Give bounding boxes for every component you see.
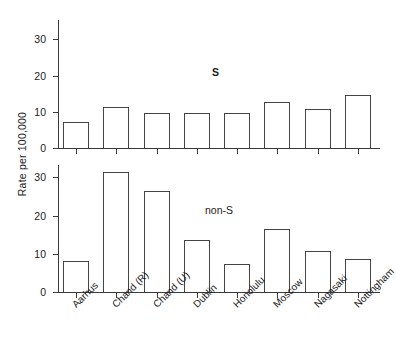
bar-S-Honolulu bbox=[224, 113, 250, 148]
x-tick-S-Aarhus bbox=[76, 149, 77, 154]
y-tick-non-S-30 bbox=[53, 177, 58, 178]
y-tick-S-0 bbox=[53, 148, 58, 149]
panel-annotation-non-s: non-S bbox=[205, 204, 233, 216]
y-tick-S-20 bbox=[53, 76, 58, 77]
y-axis-line-top bbox=[58, 20, 59, 148]
bar-S-Chand (R) bbox=[103, 107, 129, 148]
x-tick-S-Nagasaki bbox=[318, 149, 319, 154]
y-tick-non-S-20 bbox=[53, 216, 58, 217]
x-tick-S-Moscow bbox=[277, 149, 278, 154]
bar-S-Chand (U) bbox=[144, 113, 170, 148]
y-tick-label-S-0: 0 bbox=[22, 142, 46, 154]
y-tick-label-S-30: 30 bbox=[22, 33, 46, 45]
bar-non-S-Chand (R) bbox=[103, 172, 129, 292]
y-tick-label-S-10: 10 bbox=[22, 106, 46, 118]
y-tick-non-S-0 bbox=[53, 292, 58, 293]
x-tick-S-Dublin bbox=[197, 149, 198, 154]
y-tick-S-10 bbox=[53, 112, 58, 113]
x-tick-S-Honolulu bbox=[237, 149, 238, 154]
y-tick-label-non-S-0: 0 bbox=[22, 286, 46, 298]
y-tick-label-non-S-30: 30 bbox=[22, 171, 46, 183]
bar-S-Aarhus bbox=[63, 122, 89, 148]
panel-s: S 0102030 bbox=[0, 0, 396, 155]
bar-S-Dublin bbox=[184, 113, 210, 148]
panel-annotation-s: S bbox=[212, 66, 219, 78]
bar-S-Nottingham bbox=[345, 95, 371, 148]
x-tick-S-Chand (R) bbox=[116, 149, 117, 154]
bar-S-Nagasaki bbox=[305, 109, 331, 148]
y-tick-label-non-S-10: 10 bbox=[22, 248, 46, 260]
y-tick-label-S-20: 20 bbox=[22, 70, 46, 82]
chart-figure: Rate per 100,000 S 0102030 non-S 0102030… bbox=[0, 0, 396, 353]
bar-non-S-Dublin bbox=[184, 240, 210, 292]
y-tick-non-S-10 bbox=[53, 254, 58, 255]
x-axis-line-top bbox=[58, 148, 380, 149]
y-tick-label-non-S-20: 20 bbox=[22, 210, 46, 222]
y-axis-line-bottom bbox=[58, 165, 59, 292]
x-tick-S-Chand (U) bbox=[157, 149, 158, 154]
bar-non-S-Moscow bbox=[264, 229, 290, 292]
y-tick-S-30 bbox=[53, 39, 58, 40]
x-tick-S-Nottingham bbox=[358, 149, 359, 154]
bar-S-Moscow bbox=[264, 102, 290, 148]
